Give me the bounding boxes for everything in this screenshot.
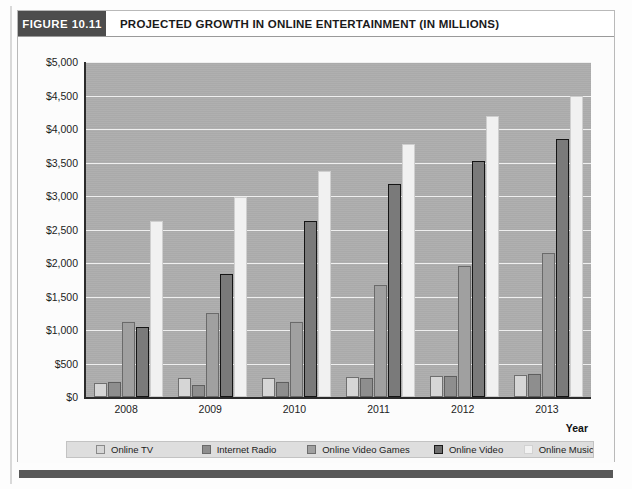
legend-item[interactable]: Online TV: [96, 444, 153, 455]
bar: [150, 221, 163, 397]
y-axis-tick-label: $500: [55, 358, 78, 370]
legend-swatch-icon: [307, 445, 316, 454]
x-axis-labels: 200820092010201120122013: [84, 403, 589, 419]
bar: [486, 116, 499, 397]
bar: [346, 377, 359, 397]
x-axis-tick-label: 2012: [451, 403, 474, 415]
legend-item-label: Online Music: [539, 444, 594, 455]
figure-header: FIGURE 10.11 PROJECTED GROWTH IN ONLINE …: [18, 11, 614, 37]
legend-item[interactable]: Online Video: [434, 444, 503, 455]
bar: [262, 378, 275, 397]
bar-group: [86, 62, 170, 397]
bar-group: [339, 62, 423, 397]
bar-group: [507, 62, 591, 397]
bar: [136, 327, 149, 397]
x-axis-tick-label: 2010: [283, 403, 306, 415]
bar: [178, 378, 191, 397]
legend-item-label: Online Video: [449, 444, 503, 455]
x-axis-title: Year: [566, 422, 588, 434]
legend-item-label: Internet Radio: [217, 444, 277, 455]
page-left-edge: [10, 6, 12, 484]
legend-item[interactable]: Online Music: [524, 444, 594, 455]
chart-legend: Online TVInternet RadioOnline Video Game…: [66, 441, 594, 458]
y-axis-tick-label: $2,000: [46, 257, 78, 269]
legend-swatch-icon: [96, 445, 105, 454]
y-axis-tick-label: $3,500: [46, 157, 78, 169]
bar: [276, 382, 289, 397]
bar: [234, 197, 247, 397]
bar: [318, 171, 331, 397]
legend-item-label: Online TV: [111, 444, 153, 455]
bar-group: [254, 62, 338, 397]
bar: [220, 274, 233, 397]
bar: [570, 96, 583, 398]
figure-card: FIGURE 10.11 PROJECTED GROWTH IN ONLINE …: [17, 10, 615, 462]
bar: [472, 161, 485, 398]
x-axis-tick-label: 2009: [199, 403, 222, 415]
legend-item[interactable]: Internet Radio: [202, 444, 277, 455]
bar: [514, 375, 527, 397]
bar: [94, 383, 107, 397]
y-axis-labels: $5,000$4,500$4,000$3,500$3,000$2,500$2,0…: [18, 62, 78, 397]
bottom-rule: [19, 470, 613, 478]
x-axis-tick-label: 2011: [367, 403, 390, 415]
bar: [360, 378, 373, 397]
bar: [290, 322, 303, 397]
x-axis-tick-label: 2008: [114, 403, 137, 415]
legend-swatch-icon: [524, 445, 533, 454]
bar: [206, 313, 219, 397]
bar-group: [423, 62, 507, 397]
bar: [388, 184, 401, 397]
y-axis-tick-label: $1,500: [46, 291, 78, 303]
legend-swatch-icon: [202, 445, 211, 454]
bar: [430, 376, 443, 397]
bar: [458, 266, 471, 397]
bar-group: [170, 62, 254, 397]
y-axis-tick-label: $4,500: [46, 90, 78, 102]
y-axis-tick-label: $2,500: [46, 224, 78, 236]
bar: [556, 139, 569, 397]
legend-swatch-icon: [434, 445, 443, 454]
figure-number-label: FIGURE 10.11: [18, 11, 106, 36]
bar: [402, 144, 415, 397]
y-axis-tick-label: $3,000: [46, 190, 78, 202]
bar: [108, 382, 121, 397]
legend-item-label: Online Video Games: [322, 444, 410, 455]
legend-item[interactable]: Online Video Games: [307, 444, 410, 455]
y-axis-tick-label: $0: [66, 391, 78, 403]
bar: [192, 385, 205, 397]
bar: [304, 221, 317, 397]
y-axis-tick-label: $1,000: [46, 324, 78, 336]
x-axis-tick-label: 2013: [535, 403, 558, 415]
chart-body: $5,000$4,500$4,000$3,500$3,000$2,500$2,0…: [18, 37, 614, 463]
bar: [374, 285, 387, 397]
y-axis-tick-label: $5,000: [46, 56, 78, 68]
y-axis-tick-label: $4,000: [46, 123, 78, 135]
figure-title: PROJECTED GROWTH IN ONLINE ENTERTAINMENT…: [106, 11, 614, 36]
bar: [122, 322, 135, 397]
plot-area: [84, 62, 591, 399]
bar: [528, 374, 541, 397]
bar: [542, 253, 555, 397]
bar: [444, 376, 457, 397]
figure-page: FIGURE 10.11 PROJECTED GROWTH IN ONLINE …: [0, 0, 632, 489]
